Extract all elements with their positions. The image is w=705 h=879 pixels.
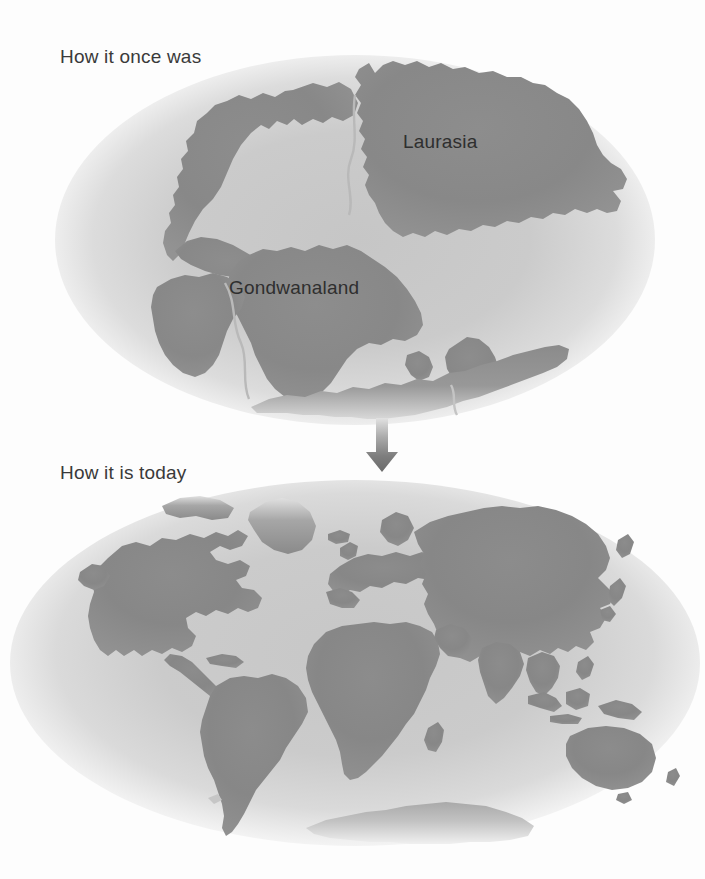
label-laurasia: Laurasia <box>403 131 477 153</box>
pangaea-svg <box>55 55 655 425</box>
continental-drift-figure: How it once was <box>0 0 705 879</box>
world-map <box>10 480 700 870</box>
landmass-tasmania <box>616 792 632 804</box>
pangaea-map <box>55 55 655 425</box>
down-arrow-svg <box>362 418 402 474</box>
world-map-svg <box>10 480 700 870</box>
down-arrow-icon <box>362 418 402 474</box>
label-gondwanaland: Gondwanaland <box>229 277 359 299</box>
landmass-new-zealand <box>666 768 680 786</box>
landmass-laurasia-east <box>355 61 627 237</box>
